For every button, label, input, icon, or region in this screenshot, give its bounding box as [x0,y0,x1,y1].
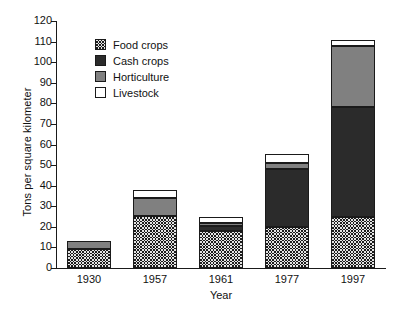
legend-label: Food crops [113,39,168,51]
y-tick-label: 90 [40,76,52,88]
bar-1997 [331,40,375,268]
bar-segment [265,169,309,227]
bar-1930 [67,241,111,268]
y-tick-label: 40 [40,179,52,191]
bar-segment [331,46,375,108]
legend-item: Horticulture [95,69,215,84]
y-tick-label: 70 [40,117,52,129]
bar-segment [199,231,243,268]
y-tick-label: 60 [40,138,52,150]
bar-segment [199,223,243,226]
bar-segment [265,227,309,268]
y-tick-label: 110 [34,35,52,47]
bar-segment [199,217,243,223]
y-tick-label: 30 [40,199,52,211]
bar-segment [265,163,309,169]
x-tick-label: 1930 [54,273,124,285]
legend-item: Livestock [95,85,215,100]
bar-segment [67,249,111,268]
y-tick-label: 10 [40,240,52,252]
y-tick-label: 80 [40,96,52,108]
legend-label: Livestock [113,87,159,99]
bar-segment [331,217,375,268]
bar-segment [199,226,243,231]
y-tick-label: 120 [34,14,52,26]
legend-swatch-icon [95,71,106,82]
legend-label: Horticulture [113,71,169,83]
legend-swatch-icon [95,55,106,66]
bar-segment [133,190,177,198]
legend-swatch-icon [95,39,106,50]
legend-item: Food crops [95,37,215,52]
y-tick-label: 50 [40,158,52,170]
y-tick-label: 0 [46,261,52,273]
bar-1961 [199,217,243,268]
x-axis-title: Year [56,289,386,301]
chart-legend: Food cropsCash cropsHorticultureLivestoc… [95,37,215,101]
legend-item: Cash crops [95,53,215,68]
bar-segment [265,154,309,163]
y-axis-line [56,21,57,268]
chart-figure: Tons per square kilometer 01020304050607… [0,0,419,309]
x-tick-label: 1957 [120,273,190,285]
x-tick-label: 1977 [252,273,322,285]
legend-label: Cash crops [113,55,169,67]
bar-segment [331,40,375,46]
y-axis-title: Tons per square kilometer [21,72,33,232]
bar-1977 [265,154,309,268]
legend-swatch-icon [95,87,106,98]
bar-1957 [133,190,177,268]
y-tick-label: 100 [34,55,52,67]
y-tick-label: 20 [40,220,52,232]
x-axis-line [56,268,386,269]
bar-segment [133,198,177,215]
x-tick-label: 1961 [186,273,256,285]
bar-segment [331,107,375,216]
bar-segment [67,241,111,249]
bar-segment [133,216,177,268]
x-tick-label: 1997 [318,273,388,285]
